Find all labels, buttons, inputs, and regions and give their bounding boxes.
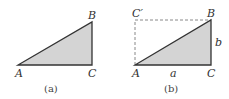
side-label-a: a	[170, 67, 177, 80]
vertex-label-c: C	[207, 67, 216, 80]
caption-b: (b)	[164, 83, 178, 94]
vertex-label-b: B	[87, 9, 96, 22]
figure: A C B (a) A C B C′ a b (b)	[0, 0, 229, 99]
vertex-label-a: A	[131, 67, 140, 80]
panel-a: A C B (a)	[14, 9, 97, 94]
vertex-label-c: C	[88, 67, 97, 80]
vertex-label-a: A	[14, 67, 23, 80]
side-label-b: b	[215, 36, 222, 49]
panel-b: A C B C′ a b (b)	[131, 7, 222, 94]
triangle-abc	[135, 20, 211, 65]
vertex-label-b: B	[206, 7, 215, 20]
caption-a: (a)	[44, 83, 58, 94]
triangle-abc	[18, 22, 92, 65]
vertex-label-c-prime: C′	[132, 7, 143, 20]
